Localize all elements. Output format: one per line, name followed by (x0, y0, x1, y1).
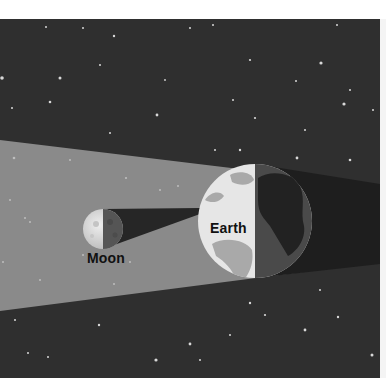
right-border (380, 19, 386, 378)
earth-label: Earth (210, 220, 247, 236)
moon-label: Moon (87, 250, 125, 266)
eclipse-diagram (0, 0, 386, 378)
